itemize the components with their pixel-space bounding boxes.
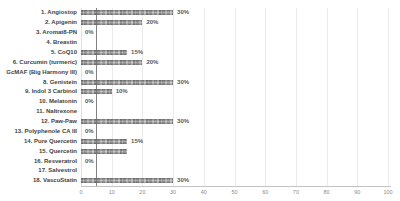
- x-tick-label: 90: [346, 189, 368, 195]
- chart-row: 15. Quercetin: [0, 146, 400, 156]
- category-label: 8. Genistein: [0, 78, 81, 87]
- chart-row: 14. Pure Quercetin15%: [0, 136, 400, 146]
- value-label: 20%: [146, 58, 158, 67]
- category-label: 1. Angiostop: [0, 8, 81, 17]
- chart-row: GcMAF (Big Harmony III)0%: [0, 67, 400, 77]
- category-label: 10. Melatonin: [0, 97, 81, 106]
- x-tick-label: 40: [193, 189, 215, 195]
- bar-track: 30%: [81, 117, 400, 127]
- chart-title-text: Illustrates % of total cancer cell death…: [75, 5, 325, 6]
- x-tick-label: 20: [131, 189, 153, 195]
- category-label: 11. Naltrexone: [0, 107, 81, 116]
- chart-row: 6. Curcumin (turmeric)20%: [0, 57, 400, 67]
- category-label: 16. Resveratrol: [0, 157, 81, 166]
- x-axis: 0102030405060708090100: [81, 189, 391, 199]
- value-label: 30%: [177, 8, 189, 17]
- category-label: 18. VascuStatin: [0, 176, 81, 185]
- bar-track: 15%: [81, 136, 400, 146]
- bar-track: 10%: [81, 87, 400, 97]
- bar-track: 15%: [81, 48, 400, 58]
- bar-track: 30%: [81, 176, 400, 186]
- bar-track: 30%: [81, 8, 400, 18]
- bar-track: 20%: [81, 57, 400, 67]
- value-label: 15%: [131, 137, 143, 146]
- chart-row: 3. Aromat8-PN0%: [0, 28, 400, 38]
- bar-track: 0%: [81, 28, 400, 38]
- bar: [81, 20, 142, 25]
- category-label: 17. Salvestrol: [0, 166, 81, 175]
- chart-rows: 1. Angiostop30%2. Apigenin20%3. Aromat8-…: [0, 8, 400, 186]
- value-label: 30%: [177, 117, 189, 126]
- bar-track: 20%: [81, 18, 400, 28]
- bar-track: [81, 38, 400, 48]
- chart-title-clipped: Illustrates % of total cancer cell death…: [0, 0, 400, 5]
- x-tick-label: 50: [224, 189, 246, 195]
- category-label: 13. Polyphenole CA III: [0, 127, 81, 136]
- chart-row: 17. Salvestrol: [0, 166, 400, 176]
- bar-track: 0%: [81, 156, 400, 166]
- bar: [81, 10, 173, 15]
- chart-row: 18. VascuStatin30%: [0, 176, 400, 186]
- x-tick-label: 30: [162, 189, 184, 195]
- category-label: 4. Breastin: [0, 38, 81, 47]
- bar: [81, 149, 127, 154]
- x-tick-label: 0: [70, 189, 92, 195]
- chart-row: 5. CoQ1015%: [0, 48, 400, 58]
- chart-row: 9. Indol 3 Carbinol10%: [0, 87, 400, 97]
- bar-track: [81, 107, 400, 117]
- value-label: 0%: [85, 157, 94, 166]
- chart-row: 8. Genistein30%: [0, 77, 400, 87]
- value-label: 10%: [116, 87, 128, 96]
- value-label: 0%: [85, 127, 94, 136]
- value-label: 20%: [146, 18, 158, 27]
- x-tick-label: 10: [101, 189, 123, 195]
- chart-row: 4. Breastin: [0, 38, 400, 48]
- value-label: 30%: [177, 78, 189, 87]
- bar-chart: Illustrates % of total cancer cell death…: [0, 0, 400, 201]
- chart-row: 12. Paw-Paw30%: [0, 117, 400, 127]
- x-tick-label: 100: [377, 189, 399, 195]
- x-tick-label: 80: [316, 189, 338, 195]
- value-label: 15%: [131, 48, 143, 57]
- x-tick-label: 70: [285, 189, 307, 195]
- category-label: 6. Curcumin (turmeric): [0, 58, 81, 67]
- value-label: 0%: [85, 68, 94, 77]
- category-label: 12. Paw-Paw: [0, 117, 81, 126]
- value-label: 0%: [85, 28, 94, 37]
- category-label: 9. Indol 3 Carbinol: [0, 87, 81, 96]
- category-label: 15. Quercetin: [0, 147, 81, 156]
- chart-row: 13. Polyphenole CA III0%: [0, 127, 400, 137]
- category-label: 3. Aromat8-PN: [0, 28, 81, 37]
- category-label: 14. Pure Quercetin: [0, 137, 81, 146]
- x-tick-label: 60: [254, 189, 276, 195]
- chart-row: 2. Apigenin20%: [0, 18, 400, 28]
- chart-row: 10. Melatonin0%: [0, 97, 400, 107]
- bar: [81, 80, 173, 85]
- category-label: 5. CoQ10: [0, 48, 81, 57]
- bar: [81, 139, 127, 144]
- chart-row: 16. Resveratrol0%: [0, 156, 400, 166]
- bar: [81, 50, 127, 55]
- value-label: 0%: [85, 97, 94, 106]
- category-label: 2. Apigenin: [0, 18, 81, 27]
- reference-line: [96, 8, 97, 186]
- bar: [81, 178, 173, 183]
- bar-track: 0%: [81, 97, 400, 107]
- value-label: 30%: [177, 176, 189, 185]
- category-label: GcMAF (Big Harmony III): [0, 68, 81, 77]
- chart-row: 11. Naltrexone: [0, 107, 400, 117]
- bar-track: [81, 166, 400, 176]
- bar-track: 0%: [81, 67, 400, 77]
- bar: [81, 60, 142, 65]
- bar: [81, 119, 173, 124]
- bar-track: 0%: [81, 127, 400, 137]
- chart-row: 1. Angiostop30%: [0, 8, 400, 18]
- bar-track: 30%: [81, 77, 400, 87]
- bar-track: [81, 146, 400, 156]
